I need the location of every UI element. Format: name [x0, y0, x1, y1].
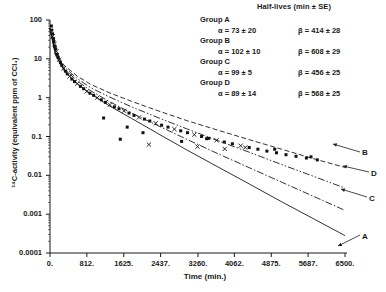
y-tick-label: 0.0001 — [2, 248, 42, 257]
x-tick-label: 4875. — [251, 259, 291, 268]
callout-arrow-c — [341, 189, 367, 197]
data-point-square — [79, 85, 82, 88]
fit-curve-a — [50, 29, 345, 236]
data-point-square — [119, 138, 122, 141]
data-point-square — [273, 148, 276, 151]
y-tick-label: 0.001 — [2, 209, 42, 218]
data-point-square — [128, 112, 131, 115]
data-point-square — [92, 94, 95, 97]
data-point-cross — [192, 133, 196, 137]
data-point-square — [113, 105, 116, 108]
callout-arrow-c-head — [341, 188, 345, 192]
x-tick-label: 3260. — [178, 259, 218, 268]
data-point-square — [265, 150, 268, 153]
data-point-cross — [172, 127, 176, 131]
data-point-square — [285, 153, 288, 156]
data-point-square — [54, 45, 57, 48]
data-point-square — [143, 118, 146, 121]
data-point-square — [100, 98, 103, 101]
callout-arrow-b — [333, 144, 360, 152]
x-tick-label: 1625. — [104, 259, 144, 268]
y-tick-label: 0.1 — [2, 132, 42, 141]
chart-figure: Half-lives (min ± SE) Group A α = 73 ± 2… — [0, 0, 386, 292]
data-point-square — [316, 158, 319, 161]
fit-curve-d — [50, 29, 345, 189]
data-point-square — [64, 70, 67, 73]
data-point-square — [70, 78, 73, 81]
x-tick-label: 6500. — [325, 259, 365, 268]
data-point-square — [102, 117, 105, 120]
data-point-square — [231, 142, 234, 145]
data-point-square — [295, 155, 298, 158]
data-point-square — [50, 29, 53, 32]
data-point-square — [248, 146, 251, 149]
x-tick-label: 5687. — [288, 259, 328, 268]
data-point-cross — [85, 89, 89, 93]
data-point-square — [180, 140, 183, 143]
curve-label-c: C — [369, 194, 375, 203]
fit-curve-c — [50, 29, 345, 211]
data-point-square — [118, 107, 121, 110]
data-point-square — [56, 53, 59, 56]
x-tick-label: 812. — [67, 259, 107, 268]
curve-label-d: D — [371, 169, 377, 178]
data-point-square — [88, 92, 91, 95]
data-point-square — [310, 155, 313, 158]
data-point-square — [160, 124, 163, 127]
data-point-cross — [243, 145, 247, 149]
data-point-square — [133, 114, 136, 117]
data-point-square — [142, 131, 145, 134]
data-point-square — [305, 157, 308, 160]
data-point-cross — [147, 143, 151, 147]
data-point-square — [200, 135, 203, 138]
data-point-square — [52, 37, 55, 40]
data-point-cross — [239, 144, 243, 148]
data-point-cross — [195, 145, 199, 149]
data-point-square — [275, 151, 278, 154]
x-tick-label: 2437. — [141, 259, 181, 268]
x-tick-label: 4062. — [214, 259, 254, 268]
data-point-square — [148, 120, 151, 123]
data-point-square — [223, 141, 226, 144]
data-point-square — [205, 137, 208, 140]
curve-label-b: B — [362, 148, 368, 157]
callout-arrow-d — [343, 166, 369, 172]
data-point-cross — [223, 147, 227, 151]
data-point-square — [256, 148, 259, 151]
data-point-cross — [75, 82, 79, 86]
data-point-square — [126, 126, 129, 129]
y-tick-label: 1 — [2, 93, 42, 102]
x-tick-label: 0. — [30, 259, 70, 268]
data-point-square — [179, 129, 182, 132]
data-point-square — [186, 131, 189, 134]
data-point-cross — [95, 96, 99, 100]
data-point-square — [167, 126, 170, 129]
data-point-square — [50, 25, 53, 28]
plot-area — [0, 0, 386, 292]
data-point-square — [104, 101, 107, 104]
y-tick-label: 0.01 — [2, 170, 42, 179]
y-tick-label: 100 — [2, 15, 42, 24]
data-point-square — [59, 61, 62, 64]
curve-label-a: A — [362, 232, 368, 241]
y-tick-label: 10 — [2, 54, 42, 63]
